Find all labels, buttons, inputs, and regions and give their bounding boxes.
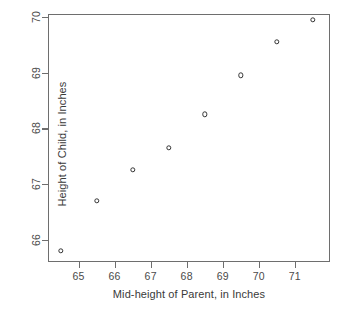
x-tick-mark [259,262,260,268]
x-tick-mark [223,262,224,268]
x-tick-label: 68 [181,270,193,282]
y-tick-mark [42,73,48,74]
x-tick-label: 66 [109,270,121,282]
x-tick-label: 70 [253,270,265,282]
y-axis-label: Height of Child, in Inches [56,20,68,268]
plot-frame [48,14,330,262]
y-tick-label: 70 [30,11,42,23]
y-tick-label: 69 [30,66,42,78]
y-tick-mark [42,240,48,241]
x-tick-label: 67 [145,270,157,282]
x-tick-mark [115,262,116,268]
x-tick-mark [151,262,152,268]
y-tick-mark [42,184,48,185]
x-tick-label: 71 [289,270,301,282]
y-tick-mark [42,17,48,18]
x-tick-mark [187,262,188,268]
y-tick-label: 66 [30,234,42,246]
x-tick-label: 69 [217,270,229,282]
x-tick-mark [295,262,296,268]
x-tick-label: 65 [73,270,85,282]
y-tick-mark [42,128,48,129]
y-tick-label: 67 [30,178,42,190]
x-tick-mark [79,262,80,268]
x-axis-label: Mid-height of Parent, in Inches [48,288,330,300]
scatter-plot-figure: 65666768697071 6667686970 Mid-height of … [0,0,344,313]
y-tick-label: 68 [30,122,42,134]
